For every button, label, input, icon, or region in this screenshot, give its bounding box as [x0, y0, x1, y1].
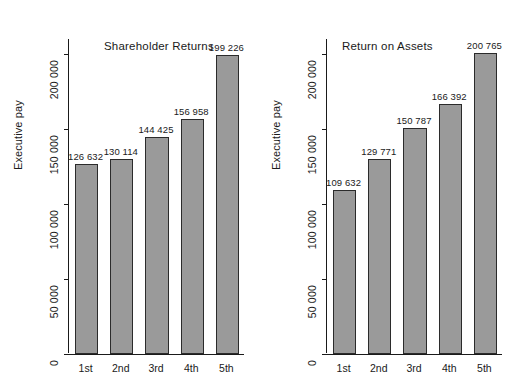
bar[interactable]	[181, 119, 204, 354]
bar[interactable]	[474, 53, 497, 354]
bar-value-label: 144 425	[132, 124, 180, 135]
plot-area: 050 000100 000150 000200 000109 6321st12…	[326, 30, 502, 355]
x-axis-line	[326, 354, 502, 355]
y-axis-tick-label: 50 000	[306, 285, 318, 318]
x-axis-tick-label: 5th	[206, 362, 246, 374]
y-axis-tick-label: 50 000	[48, 285, 60, 318]
y-axis-tick-label: 0	[306, 360, 318, 366]
y-axis-tick	[322, 354, 326, 355]
bar[interactable]	[439, 104, 462, 354]
y-axis-tick-label: 200 000	[306, 60, 318, 99]
y-axis-tick-label: 100 000	[306, 210, 318, 249]
plot-area: 050 000100 000150 000200 000126 6321st13…	[68, 30, 244, 355]
x-axis-tick-label: 1st	[66, 362, 106, 374]
y-axis-tick	[64, 54, 68, 55]
bar-value-label: 156 958	[167, 106, 215, 117]
y-axis-tick-label-wrap: 150 000	[61, 129, 62, 130]
y-axis-tick-label-wrap: 150 000	[319, 129, 320, 130]
bar[interactable]	[75, 164, 98, 354]
bar-value-label: 150 787	[390, 115, 438, 126]
y-axis-tick	[64, 354, 68, 355]
figure-canvas: Executive pay Shareholder Returns 050 00…	[0, 0, 516, 388]
y-axis-tick	[322, 279, 326, 280]
x-axis-tick-label: 3rd	[136, 362, 176, 374]
bar[interactable]	[216, 55, 239, 354]
bar[interactable]	[368, 159, 391, 354]
x-axis-tick-label: 2nd	[359, 362, 399, 374]
y-axis-tick	[64, 279, 68, 280]
y-axis-tick-label-wrap: 200 000	[319, 54, 320, 55]
bar-value-label: 199 226	[202, 42, 250, 53]
bar[interactable]	[333, 190, 356, 354]
y-axis-tick	[322, 54, 326, 55]
y-axis-tick-label-wrap: 0	[61, 354, 62, 355]
bar[interactable]	[403, 128, 426, 354]
x-axis-tick-label: 4th	[171, 362, 211, 374]
y-axis-label: Executive pay	[270, 50, 282, 170]
x-axis-tick-label: 1st	[324, 362, 364, 374]
chart-panel-return-on-assets: Executive pay Return on Assets 050 00010…	[258, 0, 516, 388]
x-axis-tick-label: 2nd	[101, 362, 141, 374]
bar-series	[327, 30, 502, 354]
y-axis-tick-label: 150 000	[306, 135, 318, 174]
x-axis-tick-label: 5th	[464, 362, 504, 374]
bar-value-label: 166 392	[425, 91, 473, 102]
y-axis-tick-label-wrap: 200 000	[61, 54, 62, 55]
y-axis-tick	[322, 204, 326, 205]
y-axis-tick-label-wrap: 100 000	[319, 204, 320, 205]
bar[interactable]	[145, 137, 168, 354]
y-axis-tick-label: 150 000	[48, 135, 60, 174]
bar-value-label: 109 632	[320, 177, 368, 188]
bar-value-label: 130 114	[97, 146, 145, 157]
y-axis-tick	[322, 129, 326, 130]
y-axis-tick-label-wrap: 50 000	[319, 279, 320, 280]
bar-series	[69, 30, 244, 354]
y-axis-tick-label-wrap: 50 000	[61, 279, 62, 280]
y-axis-label: Executive pay	[12, 50, 24, 170]
bar-value-label: 129 771	[355, 146, 403, 157]
x-axis-line	[68, 354, 244, 355]
y-axis-tick	[64, 204, 68, 205]
y-axis-tick-label: 100 000	[48, 210, 60, 249]
x-axis-tick-label: 4th	[429, 362, 469, 374]
bar-value-label: 200 765	[460, 40, 508, 51]
chart-panel-shareholder-returns: Executive pay Shareholder Returns 050 00…	[0, 0, 258, 388]
y-axis-tick-label: 200 000	[48, 60, 60, 99]
y-axis-tick-label-wrap: 100 000	[61, 204, 62, 205]
y-axis-tick	[64, 129, 68, 130]
y-axis-tick-label: 0	[48, 360, 60, 366]
x-axis-tick-label: 3rd	[394, 362, 434, 374]
bar[interactable]	[110, 159, 133, 354]
y-axis-tick-label-wrap: 0	[319, 354, 320, 355]
